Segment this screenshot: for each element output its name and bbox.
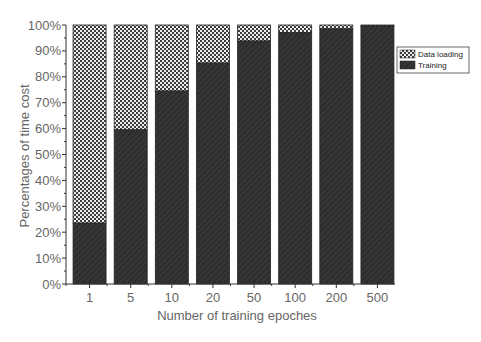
legend-label-training: Training — [418, 61, 447, 70]
bar-500 — [361, 25, 394, 284]
bar-5 — [114, 25, 147, 284]
bar-segment-data-loading — [114, 25, 147, 130]
legend-label-data-loading: Data loading — [418, 50, 463, 59]
x-tick-label: 5 — [127, 290, 134, 305]
x-tick-label: 10 — [165, 290, 179, 305]
x-tick-label: 20 — [206, 290, 220, 305]
legend-swatch-training — [400, 61, 415, 69]
y-tick-label: 30% — [35, 199, 61, 214]
y-axis-title: Percentages of time cost — [17, 84, 32, 227]
y-tick-label: 60% — [35, 121, 61, 136]
bar-segment-data-loading — [238, 25, 271, 41]
y-axis: 0%10%20%30%40%50%60%70%80%90%100% — [28, 18, 66, 292]
bar-200 — [320, 25, 353, 284]
plot-area — [73, 25, 394, 284]
x-tick-label: 500 — [367, 290, 389, 305]
y-tick-label: 20% — [35, 225, 61, 240]
y-tick-label: 100% — [28, 18, 62, 33]
bar-1 — [73, 25, 106, 284]
y-tick-label: 50% — [35, 147, 61, 162]
y-tick-label: 10% — [35, 251, 61, 266]
bar-segment-data-loading — [155, 25, 188, 91]
bar-segment-data-loading — [196, 25, 229, 63]
bar-segment-data-loading — [73, 25, 106, 223]
bar-segment-training — [73, 223, 106, 284]
x-axis-title: Number of training epoches — [157, 308, 317, 323]
y-tick-label: 80% — [35, 69, 61, 84]
x-tick-label: 200 — [325, 290, 347, 305]
y-tick-label: 0% — [42, 277, 61, 292]
bar-100 — [279, 25, 312, 284]
x-tick-label: 50 — [247, 290, 261, 305]
bar-segment-training — [361, 26, 394, 284]
bar-segment-data-loading — [320, 25, 353, 29]
x-tick-label: 1 — [86, 290, 93, 305]
y-tick-label: 90% — [35, 43, 61, 58]
bar-segment-data-loading — [279, 25, 312, 33]
bar-20 — [196, 25, 229, 284]
stacked-bar-chart: 0%10%20%30%40%50%60%70%80%90%100% 151020… — [0, 0, 481, 342]
x-tick-label: 100 — [284, 290, 306, 305]
y-tick-label: 70% — [35, 95, 61, 110]
legend: Data loading Training — [397, 47, 469, 73]
bar-10 — [155, 25, 188, 284]
bar-segment-training — [196, 63, 229, 284]
legend-swatch-data-loading — [400, 50, 415, 58]
bar-50 — [238, 25, 271, 284]
x-axis: 15102050100200500 — [66, 284, 395, 305]
bar-segment-training — [279, 33, 312, 284]
y-tick-label: 40% — [35, 173, 61, 188]
bar-segment-training — [238, 41, 271, 284]
bar-segment-training — [320, 29, 353, 284]
bar-segment-training — [114, 130, 147, 284]
bar-segment-training — [155, 91, 188, 284]
